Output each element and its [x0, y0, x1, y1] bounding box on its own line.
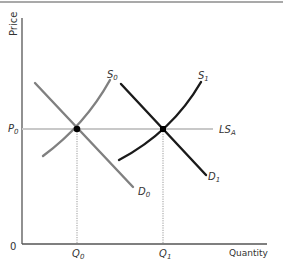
curve-label-s1: S1 — [198, 70, 209, 83]
curve-label-d1: D1 — [208, 171, 220, 184]
y-axis-label: Price — [8, 12, 19, 36]
quantity-label-q0: Q0 — [72, 248, 85, 261]
origin-label: 0 — [10, 241, 16, 252]
curve-label-lsa: LSA — [219, 124, 236, 137]
price-label-p0: P0 — [8, 123, 19, 136]
equilibrium-point-e0 — [74, 126, 81, 133]
equilibrium-point-e1 — [160, 126, 166, 132]
x-axis-label: Quantity — [229, 248, 269, 258]
curve-label-d0: D0 — [138, 186, 151, 199]
quantity-label-q1: Q1 — [159, 248, 171, 261]
supply-demand-diagram: Price 0 Quantity P0 Q0 Q1 S0 S1 D0 D1 LS… — [0, 0, 283, 270]
demand-curve-d0 — [35, 83, 133, 187]
